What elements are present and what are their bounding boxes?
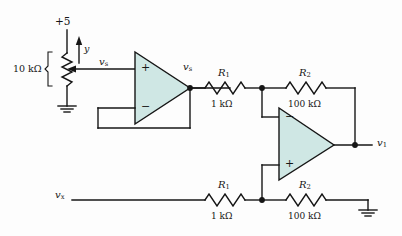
supply-label: +5	[55, 16, 70, 27]
resistor-r1-top-label: R1	[218, 68, 230, 79]
r2-bottom-base: R	[299, 179, 307, 190]
wiper-travel-label: y	[84, 44, 89, 54]
node-dot-output-v1	[352, 142, 358, 148]
pot-output-sub: s	[105, 60, 109, 68]
ground-output-rail	[359, 210, 377, 216]
opamp-difference-plus-sign: +	[285, 158, 294, 169]
follower-output-sub: s	[189, 65, 193, 73]
pot-output-label: vs	[99, 57, 108, 68]
resistor-r2-top-value: 100 kΩ	[288, 100, 321, 109]
follower-output-label: vs	[183, 62, 192, 73]
resistor-r1-bottom-value: 1 kΩ	[211, 212, 233, 221]
resistor-r2-bottom-label: R2	[299, 180, 311, 191]
r2-top-base: R	[299, 67, 307, 78]
r1-top-sub: 1	[226, 71, 230, 79]
r1-bottom-base: R	[218, 179, 226, 190]
pot-value-bracket	[45, 52, 52, 86]
opamp-follower-plus-sign: +	[141, 62, 150, 73]
r1-top-base: R	[218, 67, 226, 78]
ground-pot	[58, 106, 76, 112]
wiper-travel-arrowhead	[76, 36, 82, 45]
r2-top-sub: 2	[307, 71, 311, 79]
resistor-r2-top-label: R2	[299, 68, 311, 79]
potentiometer-value-label: 10 kΩ	[13, 64, 42, 74]
circuit-diagram: +5 10 kΩ y vs vs vx v1 R1 1 kΩ R2 100 kΩ…	[0, 0, 402, 236]
opamp-difference-minus-sign: −	[285, 111, 294, 122]
resistor-r2-bottom	[286, 194, 326, 206]
input-x-label: vx	[55, 190, 65, 201]
resistor-r2-bottom-value: 100 kΩ	[288, 212, 321, 221]
resistor-r1-bottom-label: R1	[218, 180, 230, 191]
resistor-r1-top-value: 1 kΩ	[211, 100, 233, 109]
opamp-follower-minus-sign: −	[141, 101, 150, 112]
resistor-r2-top	[286, 82, 326, 94]
r1-bottom-sub: 1	[226, 183, 230, 191]
output-sub: 1	[383, 141, 387, 149]
r2-bottom-sub: 2	[307, 183, 311, 191]
output-label: v1	[377, 138, 387, 149]
resistor-r1-bottom	[205, 194, 245, 206]
input-x-sub: x	[61, 193, 65, 201]
